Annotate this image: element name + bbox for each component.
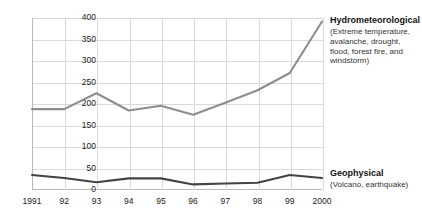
- series-label-title: Hydrometeorological: [330, 15, 422, 26]
- series-label-geophysical: Geophysical (Volcano, earthquake): [330, 168, 422, 190]
- x-axis-tick-label: 2000: [302, 196, 342, 206]
- line-chart: 050100150200250300350400 199192939495969…: [0, 0, 422, 224]
- series-line-hydrometeorological: [32, 21, 322, 114]
- series-label-hydrometeorological: Hydrometeorological (Extreme temperature…: [330, 15, 422, 65]
- gridline-vertical: [323, 18, 324, 190]
- series-label-description: (Volcano, earthquake): [330, 180, 422, 190]
- series-line-geophysical: [32, 175, 322, 184]
- series-label-title: Geophysical: [330, 168, 422, 179]
- series-label-description: (Extreme temperature, avalanche, drought…: [330, 27, 422, 65]
- series-lines: [32, 18, 322, 190]
